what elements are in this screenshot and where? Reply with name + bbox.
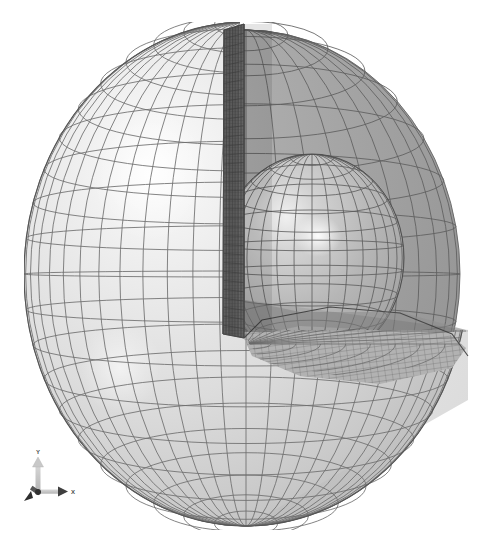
model-viewport[interactable]: Y X: [0, 0, 492, 552]
axis-x-label: X: [71, 489, 75, 495]
vertical-cut-face: [223, 24, 244, 338]
axis-y-label: Y: [36, 449, 40, 455]
axis-y: Y: [33, 449, 44, 491]
coordinate-axis-triad: Y X: [18, 448, 80, 506]
axis-x: X: [38, 487, 75, 497]
